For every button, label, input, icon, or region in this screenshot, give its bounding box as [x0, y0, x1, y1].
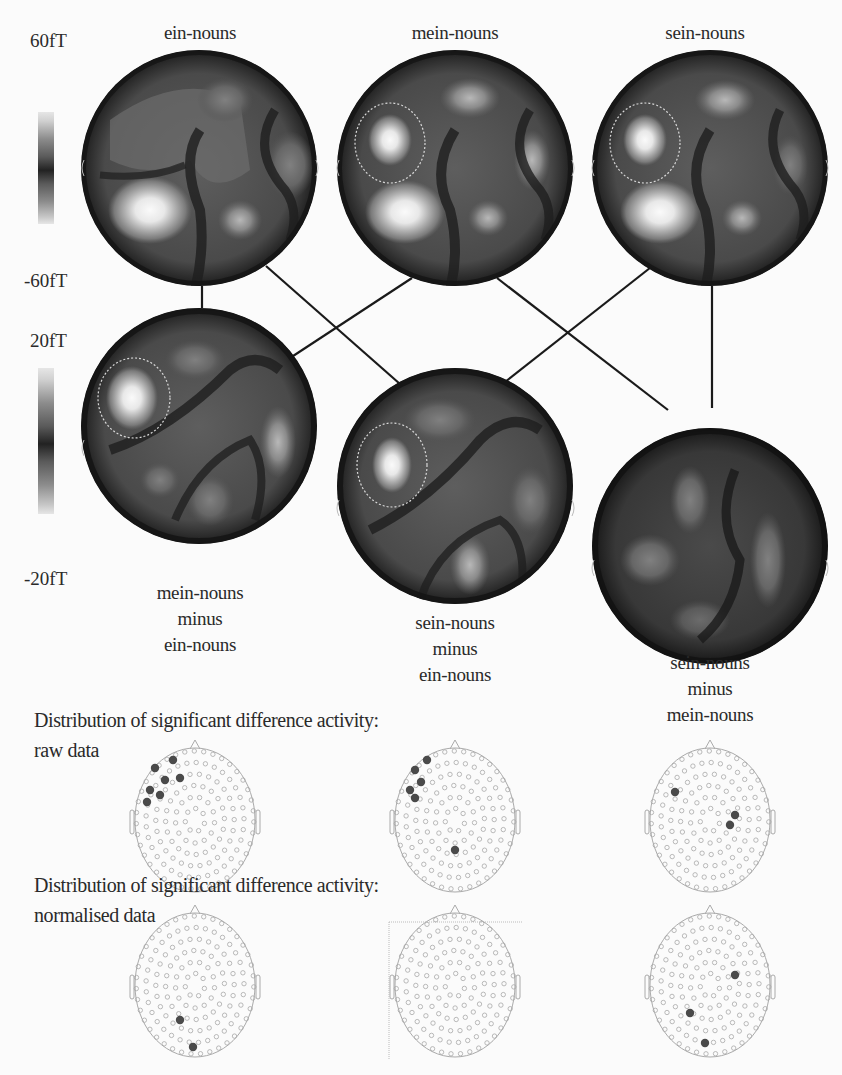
diff-label-3: sein-nouns minus mein-nouns [635, 650, 785, 728]
field-map-mein-nouns [337, 50, 573, 290]
significant-sensor [451, 846, 459, 854]
significant-sensor [161, 776, 169, 784]
significant-sensor [411, 766, 419, 774]
field-map-mein-minus-ein [81, 308, 317, 544]
diff-label-2: sein-nouns minus ein-nouns [380, 610, 530, 688]
significant-sensor [423, 756, 431, 764]
sensor-head-raw-3 [645, 740, 775, 892]
normalised-section-title: Distribution of significant difference a… [34, 870, 379, 930]
field-map-sein-minus-ein [337, 368, 573, 604]
significant-sensor [726, 821, 734, 829]
significant-sensor [189, 1043, 197, 1051]
sensor-head-raw-2 [390, 740, 520, 892]
raw-section-title: Distribution of significant difference a… [34, 705, 379, 765]
significant-sensor [143, 798, 151, 806]
significant-sensor [411, 794, 419, 802]
significant-sensor [686, 1009, 694, 1017]
significant-sensor [406, 786, 414, 794]
significant-sensor [156, 791, 164, 799]
significant-sensor [176, 774, 184, 782]
significant-sensor [176, 1016, 184, 1024]
significant-sensor [671, 788, 679, 796]
field-map-ein-nouns [81, 50, 317, 290]
sensor-head-norm-3 [645, 905, 775, 1057]
significant-sensor [731, 811, 739, 819]
significant-sensor [151, 764, 159, 772]
significant-sensor [417, 778, 425, 786]
significant-sensor [701, 1039, 709, 1047]
field-map-sein-nouns [592, 50, 828, 290]
significant-sensor [731, 971, 739, 979]
field-map-sein-minus-mein [592, 428, 828, 664]
diff-label-1: mein-nouns minus ein-nouns [125, 580, 275, 658]
sensor-head-norm-2 [390, 905, 520, 1057]
significant-sensor [146, 786, 154, 794]
